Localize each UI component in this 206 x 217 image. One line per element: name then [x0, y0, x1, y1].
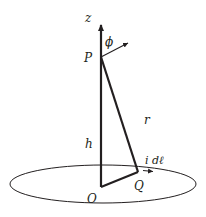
- current-loop: [10, 165, 196, 203]
- z-axis-label: z: [84, 11, 92, 25]
- point-p-label: P: [83, 51, 93, 65]
- current-element-arrow: [143, 171, 153, 172]
- segment-r: [101, 57, 138, 172]
- origin-label: O: [87, 192, 97, 206]
- height-h-label: h: [85, 137, 93, 151]
- point-q-label: Q: [134, 179, 144, 193]
- segment-radius: [101, 172, 138, 187]
- angle-label: ϕ: [105, 35, 113, 49]
- current-element-label: i dℓ: [145, 154, 164, 167]
- loop-axis-diagram: z ϕ P r h i dℓ Q O: [0, 0, 206, 217]
- distance-r-label: r: [144, 113, 151, 127]
